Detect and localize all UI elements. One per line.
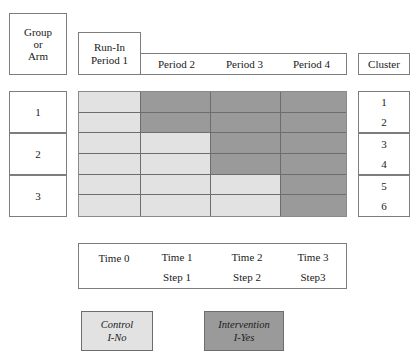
timeline-bar: Time 0 Time 1 Step 1 Time 2 Step 2 Time …	[78, 243, 347, 289]
legend-control-line-1: Control	[101, 318, 133, 331]
grid-cell-r1c1	[79, 92, 141, 113]
grid-cell-r3c4	[281, 133, 346, 154]
grid-cell-r5c1	[79, 175, 141, 196]
grid-cell-r2c3	[211, 113, 281, 134]
grid-cell-r5c4	[281, 175, 346, 196]
group-row-2: 2	[9, 133, 67, 175]
period-4-label: Period 4	[293, 58, 330, 70]
group-arm-line-2: or	[33, 38, 42, 50]
cluster-label-5: 5	[381, 180, 387, 192]
step-2-label: Step 2	[233, 271, 261, 283]
timeline-col-1: Time 1 Step 1	[142, 244, 212, 290]
cluster-label-1: 1	[381, 96, 387, 108]
timeline-col-2: Time 2 Step 2	[212, 244, 282, 290]
grid-cell-r2c4	[281, 113, 346, 134]
time-2-label: Time 2	[231, 251, 262, 263]
periods-header: Period 2 Period 3 Period 4	[140, 53, 347, 75]
run-in-line-1: Run-In	[94, 41, 125, 53]
time-3-label: Time 3	[297, 251, 328, 263]
grid-cell-r4c3	[211, 154, 281, 175]
grid-cell-r2c1	[79, 113, 141, 134]
group-row-1-label: 1	[35, 106, 41, 118]
step-3-label: Step3	[300, 271, 325, 283]
legend-control: Control I-No	[81, 311, 153, 351]
run-in-line-2: Period 1	[91, 54, 128, 66]
grid-cell-r4c4	[281, 154, 346, 175]
time-0-label: Time 0	[98, 252, 129, 264]
legend-intervention-line-2: I-Yes	[234, 331, 255, 344]
stepped-wedge-diagram: Group or Arm Run-In Period 1 Period 2 Pe…	[0, 0, 418, 364]
group-row-3: 3	[9, 175, 67, 217]
grid-cell-r4c1	[79, 154, 141, 175]
grid-cell-r4c2	[141, 154, 211, 175]
time-1-label: Time 1	[161, 251, 192, 263]
grid-cell-r5c2	[141, 175, 211, 196]
legend-intervention: Intervention I-Yes	[204, 311, 284, 351]
period-2-label: Period 2	[158, 58, 195, 70]
cluster-header-label: Cluster	[368, 58, 400, 70]
grid-cell-r1c3	[211, 92, 281, 113]
grid-cell-r6c4	[281, 195, 346, 216]
group-arm-line-1: Group	[24, 26, 52, 38]
grid-cell-r3c3	[211, 133, 281, 154]
group-row-2-label: 2	[35, 148, 41, 160]
cluster-group-2: 3 4	[358, 133, 410, 175]
group-arm-line-3: Arm	[28, 50, 48, 62]
timeline-col-0: Time 0	[79, 244, 149, 290]
legend-intervention-line-1: Intervention	[218, 318, 269, 331]
grid-cell-r5c3	[211, 175, 281, 196]
grid-cell-r3c2	[141, 133, 211, 154]
grid-cell-r6c3	[211, 195, 281, 216]
cluster-group-1: 1 2	[358, 91, 410, 133]
group-row-1: 1	[9, 91, 67, 133]
cluster-group-3: 5 6	[358, 175, 410, 217]
run-in-period-1-header: Run-In Period 1	[78, 32, 141, 75]
cluster-label-6: 6	[381, 200, 387, 212]
period-3-label: Period 3	[226, 58, 263, 70]
grid-cell-r2c2	[141, 113, 211, 134]
grid-cell-r6c1	[79, 195, 141, 216]
legend-control-line-2: I-No	[107, 331, 126, 344]
cluster-label-2: 2	[381, 116, 387, 128]
cluster-label-3: 3	[381, 138, 387, 150]
grid-cell-r1c4	[281, 92, 346, 113]
timeline-col-3: Time 3 Step3	[278, 244, 348, 290]
grid-cell-r3c1	[79, 133, 141, 154]
cluster-header: Cluster	[358, 53, 410, 75]
step-1-label: Step 1	[163, 271, 191, 283]
grid-cell-r6c2	[141, 195, 211, 216]
grid-cell-r1c2	[141, 92, 211, 113]
cluster-label-4: 4	[381, 158, 387, 170]
group-or-arm-header: Group or Arm	[9, 13, 67, 75]
group-row-3-label: 3	[35, 190, 41, 202]
design-grid	[78, 91, 347, 217]
